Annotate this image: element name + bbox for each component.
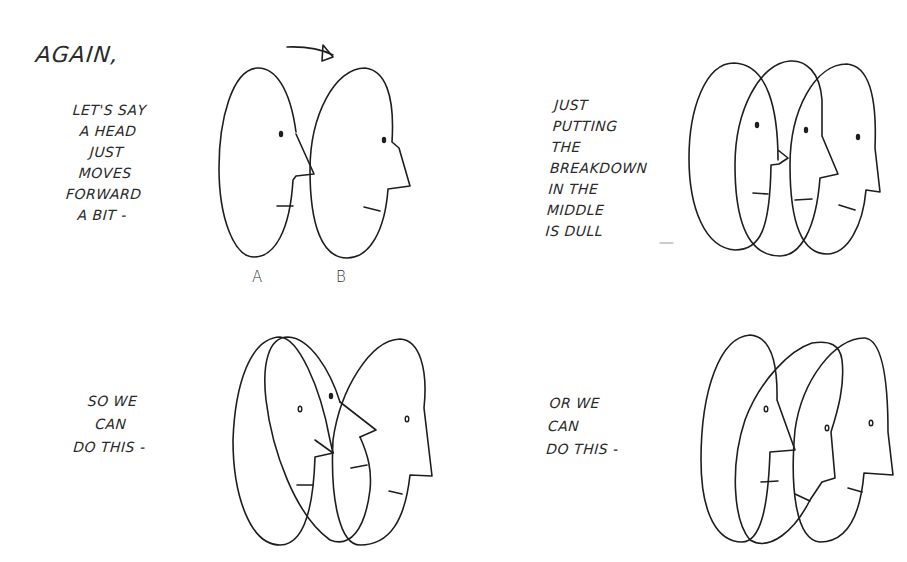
head-b-drawing xyxy=(310,68,410,258)
curved-arrow-icon xyxy=(287,45,333,61)
panel-3-drawing xyxy=(233,337,432,545)
sketch-drawings xyxy=(0,0,907,562)
sketch-page: Again, Let's say a head just moves forwa… xyxy=(0,0,907,562)
panel-2-drawing xyxy=(689,61,880,256)
panel-4-drawing xyxy=(701,335,893,543)
head-a-drawing xyxy=(219,68,314,257)
